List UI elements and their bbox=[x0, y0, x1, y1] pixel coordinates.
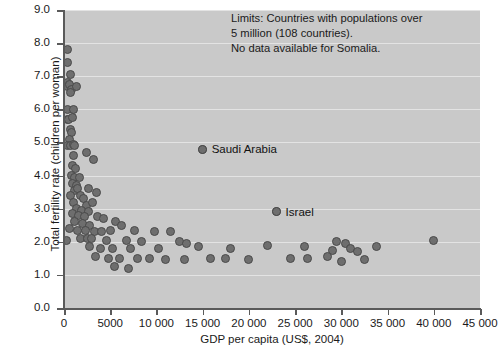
y-tick-label: 1.0 bbox=[10, 269, 50, 281]
data-point bbox=[337, 257, 346, 266]
x-axis-line bbox=[63, 308, 481, 310]
data-point bbox=[88, 198, 97, 207]
y-tick-label: 5.0 bbox=[10, 136, 50, 148]
data-point bbox=[66, 88, 75, 97]
data-point bbox=[429, 236, 438, 245]
point-label-israel: Israel bbox=[286, 206, 314, 218]
data-point bbox=[70, 141, 79, 150]
y-tick-label: 3.0 bbox=[10, 203, 50, 215]
y-tick-label: 7.0 bbox=[10, 70, 50, 82]
data-point bbox=[137, 237, 146, 246]
y-tick-label: 4.0 bbox=[10, 170, 50, 182]
y-axis-title: Total fertility rate (children per woman… bbox=[49, 4, 61, 304]
data-point bbox=[97, 227, 106, 236]
labelled-data-point-marker bbox=[272, 207, 281, 216]
data-point bbox=[64, 45, 72, 54]
x-tick bbox=[341, 309, 343, 315]
y-axis-line bbox=[63, 10, 65, 309]
data-point bbox=[244, 255, 253, 264]
data-point bbox=[130, 226, 139, 235]
data-point bbox=[91, 252, 100, 261]
y-tick-label: 8.0 bbox=[10, 37, 50, 49]
x-tick bbox=[64, 309, 66, 315]
data-point bbox=[69, 151, 78, 160]
data-point bbox=[323, 252, 332, 261]
data-point bbox=[104, 254, 113, 263]
gridline bbox=[64, 76, 480, 77]
data-point bbox=[126, 244, 135, 253]
gridline bbox=[64, 109, 480, 110]
x-tick bbox=[434, 309, 436, 315]
data-point bbox=[133, 254, 142, 263]
data-point bbox=[263, 241, 272, 250]
data-point bbox=[300, 242, 309, 251]
y-tick-label: 9.0 bbox=[10, 4, 50, 16]
data-point bbox=[102, 236, 111, 245]
x-tick bbox=[249, 309, 251, 315]
data-point bbox=[372, 242, 381, 251]
x-tick-label: 45 000 bbox=[450, 318, 502, 330]
x-tick bbox=[480, 309, 482, 315]
data-point bbox=[85, 242, 94, 251]
data-point bbox=[166, 227, 175, 236]
data-point bbox=[161, 255, 170, 264]
data-point bbox=[226, 244, 235, 253]
x-tick bbox=[156, 309, 158, 315]
labelled-data-point-marker bbox=[198, 145, 207, 154]
data-point bbox=[194, 242, 203, 251]
data-point bbox=[64, 58, 72, 67]
data-point bbox=[182, 239, 191, 248]
data-point bbox=[110, 262, 119, 271]
data-point bbox=[180, 255, 189, 264]
chart-annotation-note: Limits: Countries with populations over … bbox=[231, 11, 423, 55]
y-tick-label: 2.0 bbox=[10, 236, 50, 248]
x-tick bbox=[110, 309, 112, 315]
data-point bbox=[99, 214, 108, 223]
data-point bbox=[145, 254, 154, 263]
gridline bbox=[64, 275, 480, 276]
data-point bbox=[64, 236, 71, 245]
x-tick bbox=[295, 309, 297, 315]
point-label-saudi-arabia: Saudi Arabia bbox=[212, 143, 277, 155]
data-point bbox=[221, 254, 230, 263]
data-point bbox=[108, 244, 117, 253]
x-tick bbox=[388, 309, 390, 315]
y-tick bbox=[57, 308, 63, 310]
x-tick bbox=[203, 309, 205, 315]
data-point bbox=[117, 221, 126, 230]
data-point bbox=[124, 264, 133, 273]
data-point bbox=[154, 244, 163, 253]
data-point bbox=[106, 226, 115, 235]
data-point bbox=[89, 155, 98, 164]
y-tick-label: 0.0 bbox=[10, 302, 50, 314]
gridline bbox=[64, 176, 480, 177]
data-point bbox=[360, 255, 369, 264]
data-point bbox=[92, 188, 101, 197]
data-point bbox=[286, 254, 295, 263]
data-point bbox=[150, 227, 159, 236]
x-axis-title: GDP per capita (US$, 2004) bbox=[64, 333, 480, 345]
data-point bbox=[303, 254, 312, 263]
y-tick-label: 6.0 bbox=[10, 103, 50, 115]
data-point bbox=[332, 237, 341, 246]
data-point bbox=[206, 254, 215, 263]
data-point bbox=[68, 113, 77, 122]
